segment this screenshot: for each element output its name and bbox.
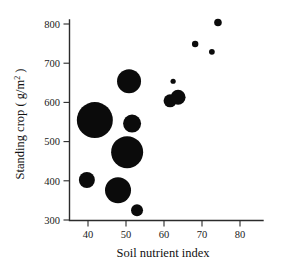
data-point-bubble [77,102,113,138]
data-point-bubble [192,41,198,47]
data-point-bubble [171,90,186,105]
data-point-layer [77,19,222,217]
y-tick-label-300: 300 [44,215,60,226]
x-tick-label-80: 80 [235,229,246,240]
y-axis-ticks [64,24,70,220]
y-axis-title-main: Standing crop ( g/m [13,80,27,180]
data-point-bubble [105,177,131,203]
data-point-bubble [117,69,141,93]
y-axis-title-text: Standing crop ( g/m2 ) [13,69,27,180]
data-point-bubble [214,19,222,27]
data-point-bubble [131,204,143,216]
chart-canvas: 800 700 600 500 400 300 40 50 60 70 80 S… [0,0,282,265]
x-tick-label-40: 40 [83,229,94,240]
data-point-bubble [171,79,176,84]
x-tick-label-70: 70 [197,229,208,240]
data-point-bubble [111,136,143,168]
y-tick-label-400: 400 [44,176,60,187]
x-tick-label-60: 60 [159,229,170,240]
bubble-chart-figure: 800 700 600 500 400 300 40 50 60 70 80 S… [0,0,282,265]
y-axis-title-tail: ) [13,69,27,76]
y-tick-label-500: 500 [44,136,60,147]
y-tick-label-600: 600 [44,97,60,108]
data-point-bubble [79,172,95,188]
x-axis-tick-labels: 40 50 60 70 80 [83,229,246,240]
x-axis-ticks [88,221,240,227]
y-tick-label-700: 700 [44,58,60,69]
data-point-bubble [123,115,141,133]
x-axis-title: Soil nutrient index [116,246,210,260]
x-tick-label-50: 50 [121,229,132,240]
y-axis-tick-labels: 800 700 600 500 400 300 [44,19,60,226]
data-point-bubble [209,49,215,55]
y-tick-label-800: 800 [44,19,60,30]
y-axis-title: Standing crop ( g/m2 ) [13,69,27,180]
